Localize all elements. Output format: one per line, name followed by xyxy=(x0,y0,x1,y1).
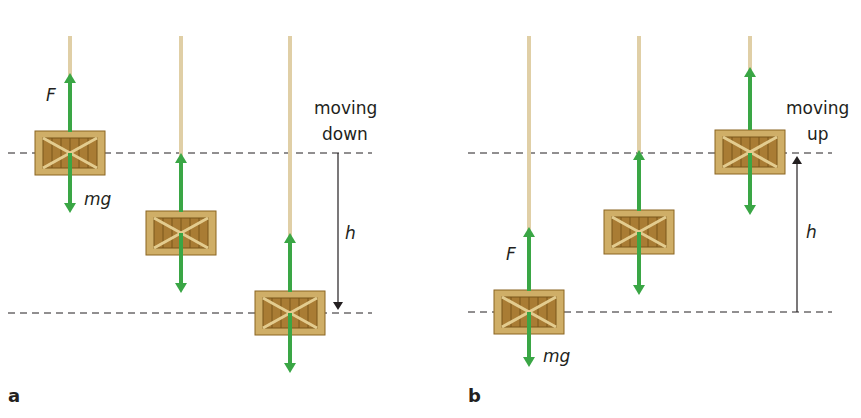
height-label-a: h xyxy=(345,223,356,243)
motion-label-b-line2: up xyxy=(807,124,829,144)
weight-label-a: mg xyxy=(84,189,112,209)
motion-label-a-line2: down xyxy=(322,124,368,144)
crate-b1 xyxy=(494,36,564,362)
crate-b2 xyxy=(604,36,674,290)
motion-label-a-line1: moving xyxy=(314,98,377,118)
panel-b xyxy=(468,36,832,362)
crate-a1 xyxy=(35,36,105,208)
force-label-a: F xyxy=(46,85,56,105)
crate-a3 xyxy=(255,36,325,368)
work-energy-diagram: F mg moving down h a F mg moving up h b xyxy=(0,0,861,418)
panel-label-b: b xyxy=(468,385,481,406)
crate-b3 xyxy=(715,36,785,210)
panel-label-a: a xyxy=(8,385,20,406)
crate-a2 xyxy=(146,36,216,288)
panel-a xyxy=(8,36,372,368)
height-label-b: h xyxy=(806,222,817,242)
weight-label-b: mg xyxy=(543,346,571,366)
motion-label-b-line1: moving xyxy=(786,98,849,118)
force-label-b: F xyxy=(506,244,516,264)
